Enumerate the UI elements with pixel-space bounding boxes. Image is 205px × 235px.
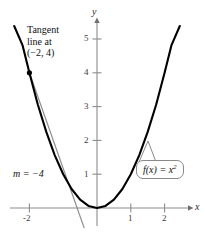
y-tick-label-2: 2: [84, 135, 89, 145]
y-axis-label: y: [92, 6, 96, 17]
x-tick-label-2: 2: [162, 213, 167, 223]
tangent-annotation-line-1: Tangent: [27, 24, 59, 36]
y-tick-label-3: 3: [84, 101, 89, 111]
x-axis-label: x: [195, 201, 199, 212]
slope-annotation: m = −4: [13, 168, 44, 179]
tangent-annotation: Tangent line at (−2, 4): [27, 24, 59, 59]
function-callout-text: f(x) = x: [143, 164, 173, 175]
function-callout-exponent: 2: [173, 163, 177, 171]
y-tick-label-5: 5: [84, 33, 89, 43]
tangent-line: [29, 73, 84, 228]
function-callout: f(x) = x2: [136, 160, 184, 179]
figure-container: y x -2 1 2 1 2 3 4 5 Tangent line at (−2…: [0, 0, 205, 235]
y-tick-label-4: 4: [84, 67, 89, 77]
tangency-point-marker: [27, 70, 32, 75]
tangent-annotation-line-3: (−2, 4): [27, 47, 59, 59]
tangent-annotation-line-2: line at: [27, 36, 59, 48]
x-tick-label-neg2: -2: [23, 213, 31, 223]
y-tick-label-1: 1: [84, 169, 89, 179]
x-tick-label-1: 1: [128, 213, 133, 223]
